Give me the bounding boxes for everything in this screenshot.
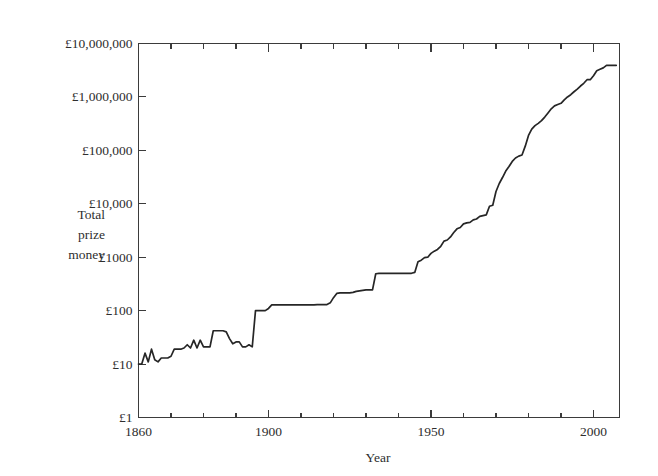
x-tick-label: 1950 xyxy=(418,424,445,439)
y-axis-title-line-1: Total xyxy=(77,207,105,222)
chart-svg: £1£10£100£1000£10,000£100,000£1,000,000£… xyxy=(0,0,658,476)
y-tick-label: £1,000,000 xyxy=(72,89,133,104)
x-tick-label: 1900 xyxy=(255,424,282,439)
x-axis-ticks xyxy=(139,44,594,418)
plot-frame xyxy=(139,44,620,418)
x-axis-title: Year xyxy=(366,450,391,465)
chart-figure: £1£10£100£1000£10,000£100,000£1,000,000£… xyxy=(0,0,658,476)
y-tick-label: £100 xyxy=(106,303,133,318)
y-tick-label: £10,000,000 xyxy=(65,36,133,51)
y-tick-label: £100,000 xyxy=(82,143,133,158)
y-axis-title-line-2: prize xyxy=(78,227,105,242)
y-axis-title-line-3: money xyxy=(68,247,105,262)
x-axis-tick-labels: 1860190019502000 xyxy=(125,424,607,439)
data-series-line xyxy=(139,65,617,364)
y-tick-label: £10 xyxy=(112,357,133,372)
series-path xyxy=(139,65,617,364)
x-tick-label: 2000 xyxy=(580,424,607,439)
x-tick-label: 1860 xyxy=(125,424,152,439)
